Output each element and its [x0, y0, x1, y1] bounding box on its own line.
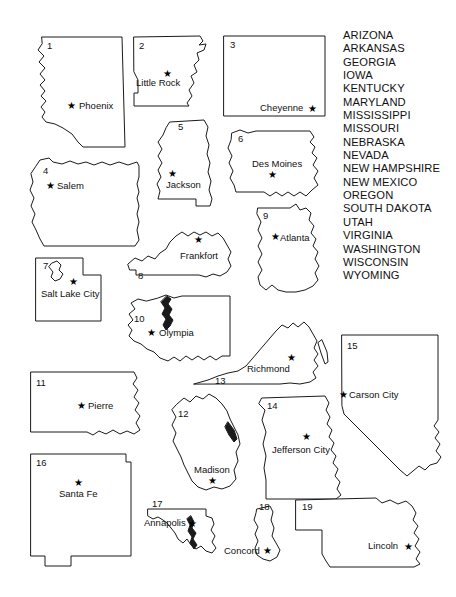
capital-star-santa-fe: ★ — [74, 477, 83, 488]
worksheet-page: 1 ★ Phoenix 2 ★ Little Rock 3 Cheyenne ★… — [0, 0, 456, 597]
state-number-5: 5 — [178, 121, 183, 132]
state-shape-16-new-mexico[interactable] — [31, 454, 131, 566]
state-name-item[interactable]: NEBRASKA — [343, 136, 455, 149]
capital-label-des-moines: Des Moines — [252, 158, 302, 169]
state-shape-5-mississippi[interactable] — [157, 120, 212, 206]
capital-label-cheyenne: Cheyenne — [260, 102, 303, 113]
capital-label-madison: Madison — [194, 464, 230, 475]
state-number-16: 16 — [36, 457, 47, 468]
capital-star-des-moines: ★ — [268, 169, 277, 180]
state-name-item[interactable]: VIRGINIA — [343, 229, 455, 242]
capital-label-salem: Salem — [57, 180, 84, 191]
state-name-item[interactable]: ARKANSAS — [343, 42, 455, 55]
capital-star-cheyenne: ★ — [308, 103, 317, 114]
state-shape-17-maryland[interactable] — [148, 509, 216, 553]
state-shape-15-nevada[interactable] — [342, 335, 441, 476]
capital-label-concord: Concord — [224, 545, 260, 556]
capital-label-jefferson-city: Jefferson City — [272, 444, 330, 455]
state-number-8: 8 — [138, 270, 143, 281]
state-number-13: 13 — [215, 375, 226, 386]
state-shape-19-nebraska[interactable] — [296, 498, 420, 567]
state-number-18: 18 — [259, 501, 270, 512]
capital-label-santa-fe: Santa Fe — [59, 488, 98, 499]
state-number-15: 15 — [347, 340, 358, 351]
state-number-4: 4 — [43, 165, 48, 176]
state-name-item[interactable]: MARYLAND — [343, 96, 455, 109]
state-name-bank: ARIZONA ARKANSAS GEORGIA IOWA KENTUCKY M… — [343, 29, 455, 283]
capital-label-annapolis: Annapolis — [144, 517, 186, 528]
capital-star-madison: ★ — [208, 475, 217, 486]
capital-star-lincoln: ★ — [404, 541, 413, 552]
capital-star-carson-city: ★ — [339, 389, 348, 400]
state-name-item[interactable]: NEW HAMPSHIRE — [343, 162, 455, 175]
state-number-6: 6 — [238, 133, 243, 144]
state-number-3: 3 — [230, 39, 235, 50]
state-name-item[interactable]: GEORGIA — [343, 56, 455, 69]
state-number-11: 11 — [36, 377, 46, 388]
capital-label-richmond: Richmond — [247, 363, 290, 374]
capital-star-olympia: ★ — [147, 327, 156, 338]
state-name-item[interactable]: WISCONSIN — [343, 256, 455, 269]
state-name-item[interactable]: MISSISSIPPI — [343, 109, 455, 122]
capital-label-salt-lake-city: Salt Lake City — [41, 288, 100, 299]
state-number-7: 7 — [43, 260, 48, 271]
capital-label-pierre: Pierre — [88, 400, 113, 411]
capital-star-richmond: ★ — [287, 352, 296, 363]
state-name-item[interactable]: IOWA — [343, 69, 455, 82]
capital-label-phoenix: Phoenix — [79, 100, 114, 111]
state-number-2: 2 — [139, 40, 144, 51]
state-name-item[interactable]: NEVADA — [343, 149, 455, 162]
state-number-9: 9 — [263, 210, 268, 221]
state-name-item[interactable]: ARIZONA — [343, 29, 455, 42]
state-name-item[interactable]: NEW MEXICO — [343, 176, 455, 189]
state-name-item[interactable]: KENTUCKY — [343, 82, 455, 95]
capital-star-phoenix: ★ — [67, 100, 76, 111]
capital-label-frankfort: Frankfort — [180, 250, 218, 261]
state-name-item[interactable]: OREGON — [343, 189, 455, 202]
state-shape-1-arizona[interactable] — [38, 37, 125, 147]
state-number-17: 17 — [152, 498, 163, 509]
capital-label-carson-city: Carson City — [349, 389, 399, 400]
state-name-item[interactable]: WYOMING — [343, 269, 455, 282]
capital-label-olympia: Olympia — [159, 327, 195, 338]
state-number-14: 14 — [267, 400, 278, 411]
state-name-item[interactable]: UTAH — [343, 216, 455, 229]
capital-label-little-rock: Little Rock — [136, 77, 181, 88]
capital-star-atlanta: ★ — [271, 231, 280, 242]
capital-star-jackson: ★ — [168, 168, 177, 179]
delmarva-tip-shape — [318, 340, 328, 364]
capital-label-atlanta: Atlanta — [280, 232, 310, 243]
capital-star-pierre: ★ — [77, 400, 86, 411]
state-number-10: 10 — [134, 313, 145, 324]
state-name-item[interactable]: WASHINGTON — [343, 243, 455, 256]
state-number-12: 12 — [178, 408, 189, 419]
state-name-item[interactable]: MISSOURI — [343, 122, 455, 135]
state-number-19: 19 — [302, 501, 313, 512]
capital-star-jefferson-city: ★ — [302, 431, 311, 442]
capital-star-salt-lake-city: ★ — [69, 276, 78, 287]
capital-star-annapolis: ★ — [188, 518, 197, 529]
capital-label-lincoln: Lincoln — [368, 540, 398, 551]
state-name-item[interactable]: SOUTH DAKOTA — [343, 202, 455, 215]
capital-star-frankfort: ★ — [194, 234, 203, 245]
capital-star-concord: ★ — [263, 545, 272, 556]
capital-star-salem: ★ — [46, 180, 55, 191]
state-number-1: 1 — [47, 40, 52, 51]
capital-label-jackson: Jackson — [166, 179, 201, 190]
